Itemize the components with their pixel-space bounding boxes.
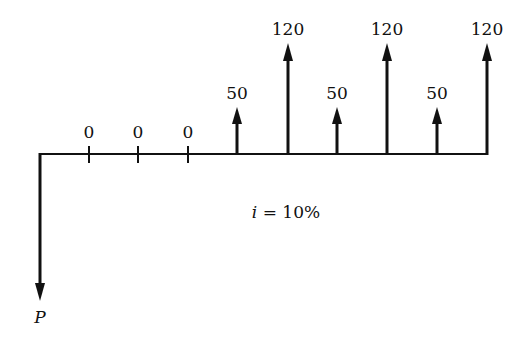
cash-inflow-arrow-period-7: 120: [371, 19, 403, 154]
zero-period-3: 0: [183, 122, 194, 163]
cash-inflow-arrow-period-4: 50: [226, 83, 248, 154]
svg-text:0: 0: [183, 122, 194, 142]
arrowhead-up-icon: [332, 107, 342, 124]
svg-text:50: 50: [326, 83, 348, 103]
zero-period-2: 0: [133, 122, 144, 163]
cash-inflow-arrow-period-6: 50: [326, 83, 348, 154]
svg-text:120: 120: [272, 19, 304, 39]
present-value-label: P: [33, 307, 46, 327]
interest-rate-label: i = 10%: [252, 202, 320, 222]
zero-period-1: 0: [84, 122, 95, 163]
svg-text:50: 50: [426, 83, 448, 103]
arrowhead-down-icon: [35, 283, 45, 301]
cash-inflow-arrow-period-5: 120: [272, 19, 304, 154]
cash-flow-diagram: P 0 0 0 50 50 50 120 120 1: [0, 0, 521, 351]
interest-rate-rest: =: [257, 202, 282, 222]
cash-inflow-arrow-period-8: 50: [426, 83, 448, 154]
svg-text:50: 50: [226, 83, 248, 103]
interest-rate-value: 10%: [282, 202, 320, 222]
arrowhead-up-icon: [482, 43, 492, 61]
svg-text:0: 0: [133, 122, 144, 142]
svg-text:120: 120: [471, 19, 503, 39]
cash-inflow-arrow-period-9: 120: [471, 19, 503, 155]
arrowhead-up-icon: [283, 43, 293, 61]
svg-text:120: 120: [371, 19, 403, 39]
arrowhead-up-icon: [382, 43, 392, 61]
arrowhead-up-icon: [232, 107, 242, 124]
arrowhead-up-icon: [432, 107, 442, 124]
svg-text:0: 0: [84, 122, 95, 142]
